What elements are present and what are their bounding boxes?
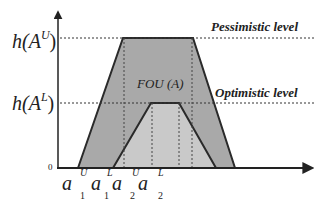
upper-height-label: h(AU) — [12, 28, 56, 53]
pessimistic-label: Pessimistic level — [211, 19, 298, 34]
x-label-a2L: a L 2 — [138, 167, 164, 201]
svg-text:a: a — [138, 172, 148, 194]
x-label-a2U: a U 2 — [112, 167, 140, 201]
svg-text:2: 2 — [158, 190, 163, 201]
svg-text:a: a — [62, 172, 72, 194]
fou-label: FOU (A) — [136, 76, 184, 91]
fou-diagram: h(AU) h(AL) 0 Pessimistic level Optimist… — [0, 0, 326, 203]
zero-label: 0 — [48, 162, 53, 172]
lower-height-label: h(AL) — [12, 90, 54, 115]
svg-text:1: 1 — [104, 190, 109, 201]
optimistic-label: Optimistic level — [215, 85, 298, 100]
x-label-a1L: a L 1 — [91, 167, 113, 201]
x-label-a1U: a U 1 — [62, 167, 88, 201]
svg-text:2: 2 — [130, 190, 135, 201]
svg-text:L: L — [157, 167, 164, 178]
svg-text:a: a — [91, 172, 101, 194]
svg-text:1: 1 — [80, 190, 85, 201]
svg-text:U: U — [80, 167, 88, 178]
svg-text:a: a — [112, 172, 122, 194]
